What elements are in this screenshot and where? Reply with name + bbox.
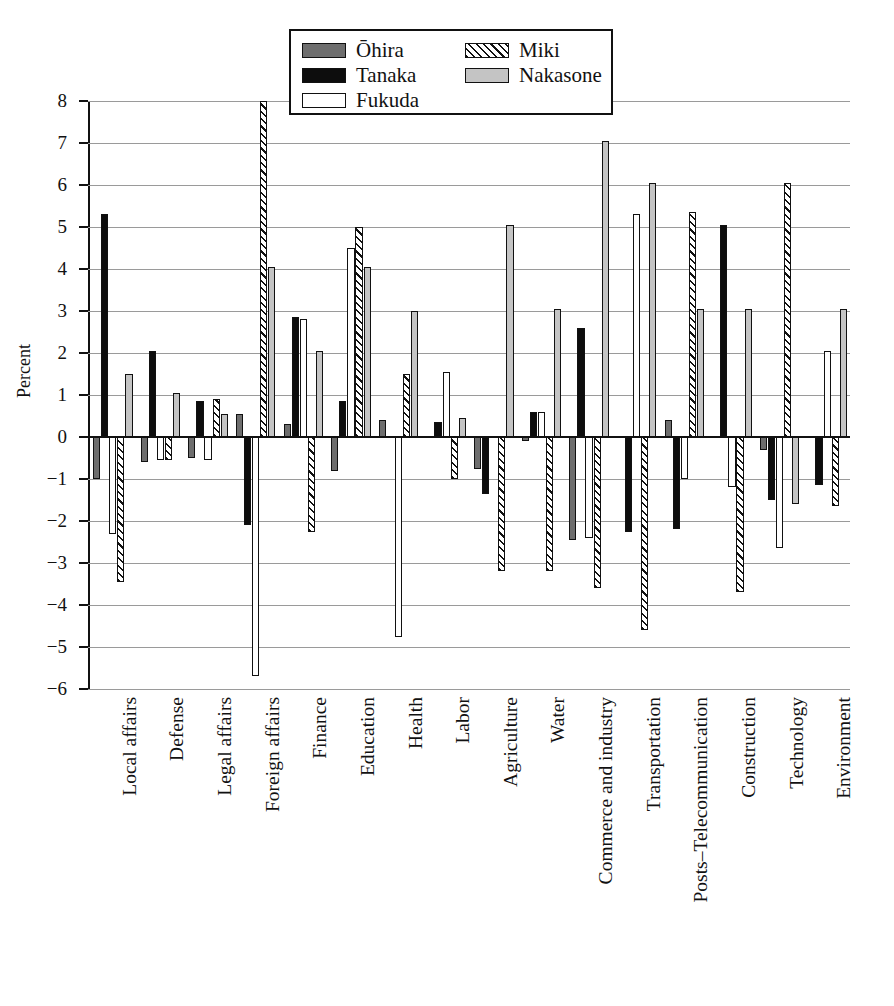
bar[interactable] xyxy=(204,437,211,460)
legend-item[interactable]: Fukuda xyxy=(302,88,419,112)
y-axis-tick: 2 xyxy=(79,352,88,354)
bar[interactable] xyxy=(554,309,561,437)
y-axis-tick-label: 4 xyxy=(58,259,68,278)
bar[interactable] xyxy=(347,248,354,437)
plot-area: 876543210−1−2−3−4−5−6 xyxy=(88,101,850,689)
bar[interactable] xyxy=(538,412,545,437)
bar[interactable] xyxy=(434,422,441,437)
bar[interactable] xyxy=(395,437,402,637)
legend-item-label: Fukuda xyxy=(356,90,419,111)
bar[interactable] xyxy=(196,401,203,437)
bar[interactable] xyxy=(292,317,299,437)
bar[interactable] xyxy=(594,437,601,588)
bar[interactable] xyxy=(109,437,116,534)
bar[interactable] xyxy=(284,424,291,437)
bar[interactable] xyxy=(745,309,752,437)
bar[interactable] xyxy=(736,437,743,592)
bar[interactable] xyxy=(260,101,267,437)
bar-group xyxy=(188,101,228,689)
bar[interactable] xyxy=(331,437,338,471)
bar[interactable] xyxy=(173,393,180,437)
x-axis-label: Finance xyxy=(310,697,330,759)
y-axis-tick-label: 0 xyxy=(58,427,68,446)
bar[interactable] xyxy=(585,437,592,538)
bar[interactable] xyxy=(93,437,100,479)
bar[interactable] xyxy=(482,437,489,494)
bar[interactable] xyxy=(498,437,505,571)
legend-item[interactable]: Tanaka xyxy=(302,63,419,87)
bar[interactable] xyxy=(339,401,346,437)
bar[interactable] xyxy=(101,214,108,437)
bar[interactable] xyxy=(697,309,704,437)
bar[interactable] xyxy=(213,399,220,437)
bar[interactable] xyxy=(633,214,640,437)
bar[interactable] xyxy=(720,225,727,437)
bar[interactable] xyxy=(188,437,195,458)
bar[interactable] xyxy=(728,437,735,487)
bar[interactable] xyxy=(316,351,323,437)
bar-group xyxy=(236,101,276,689)
x-axis-label: Commerce and industry xyxy=(596,697,616,884)
bar[interactable] xyxy=(784,183,791,437)
bar[interactable] xyxy=(689,212,696,437)
legend-item[interactable]: Nakasone xyxy=(465,63,602,87)
y-axis-tick: 1 xyxy=(79,394,88,396)
bar[interactable] xyxy=(776,437,783,548)
bar[interactable] xyxy=(221,414,228,437)
bar[interactable] xyxy=(300,319,307,437)
bar[interactable] xyxy=(403,374,410,437)
bar[interactable] xyxy=(355,227,362,437)
bar[interactable] xyxy=(149,351,156,437)
bar[interactable] xyxy=(815,437,822,485)
bar[interactable] xyxy=(379,420,386,437)
bar[interactable] xyxy=(125,374,132,437)
bar[interactable] xyxy=(625,437,632,532)
bar[interactable] xyxy=(768,437,775,500)
bar[interactable] xyxy=(760,437,767,450)
bar[interactable] xyxy=(641,437,648,630)
bar[interactable] xyxy=(506,225,513,437)
y-axis-tick-label: −3 xyxy=(47,553,67,572)
bar[interactable] xyxy=(474,437,481,469)
bar[interactable] xyxy=(577,328,584,437)
y-axis-tick: 7 xyxy=(79,142,88,144)
bar[interactable] xyxy=(117,437,124,582)
bar[interactable] xyxy=(236,414,243,437)
bar[interactable] xyxy=(832,437,839,506)
bar[interactable] xyxy=(824,351,831,437)
bar-group xyxy=(712,101,752,689)
bar[interactable] xyxy=(165,437,172,460)
bar[interactable] xyxy=(602,141,609,437)
bar[interactable] xyxy=(411,311,418,437)
bar[interactable] xyxy=(252,437,259,676)
bar[interactable] xyxy=(546,437,553,571)
x-axis-labels: Local affairsDefenseLegal affairsForeign… xyxy=(88,697,850,997)
x-axis-label: Environment xyxy=(834,697,854,799)
x-axis-label: Legal affairs xyxy=(215,697,235,796)
bar[interactable] xyxy=(459,418,466,437)
bar[interactable] xyxy=(665,420,672,437)
bar[interactable] xyxy=(364,267,371,437)
bar[interactable] xyxy=(522,437,529,441)
bar-group xyxy=(617,101,657,689)
bar[interactable] xyxy=(673,437,680,529)
bar[interactable] xyxy=(157,437,164,460)
bar[interactable] xyxy=(451,437,458,479)
x-axis-label: Water xyxy=(548,697,568,743)
y-axis-tick-label: 3 xyxy=(58,301,68,320)
bar-group xyxy=(93,101,133,689)
bar[interactable] xyxy=(792,437,799,504)
bar[interactable] xyxy=(681,437,688,479)
bar[interactable] xyxy=(141,437,148,462)
bar[interactable] xyxy=(443,372,450,437)
y-axis-tick: −3 xyxy=(79,562,88,564)
bar[interactable] xyxy=(308,437,315,532)
bar[interactable] xyxy=(649,183,656,437)
bar[interactable] xyxy=(244,437,251,525)
legend-item[interactable]: Ōhira xyxy=(302,38,419,62)
bar[interactable] xyxy=(268,267,275,437)
bar[interactable] xyxy=(840,309,847,437)
legend-item[interactable]: Miki xyxy=(465,38,602,62)
bar[interactable] xyxy=(569,437,576,540)
bar[interactable] xyxy=(530,412,537,437)
